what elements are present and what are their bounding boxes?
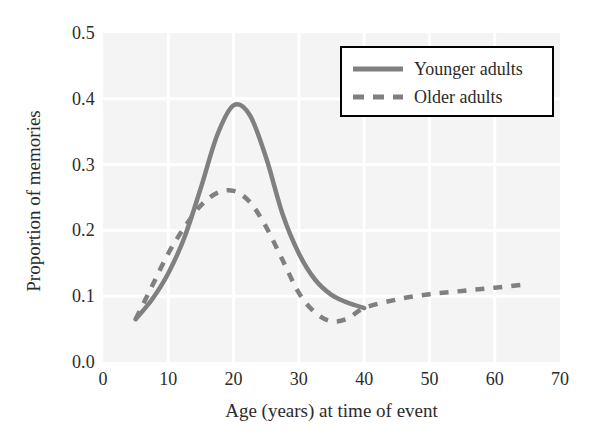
solid-line-swatch-icon [352,59,404,79]
y-tick-label: 0.4 [47,90,95,108]
y-axis-tick-labels: 0.5 0.4 0.3 0.2 0.1 0.0 [40,33,95,362]
y-tick-label: 0.1 [47,287,95,305]
chart-legend: Younger adults Older adults [340,46,554,117]
y-axis-title: Proportion of memories [23,31,45,371]
legend-entry-younger-adults: Younger adults [352,55,542,83]
y-tick-label: 0.0 [47,353,95,371]
x-tick-label: 60 [475,370,515,388]
y-tick-label: 0.2 [47,221,95,239]
x-axis-title: Age (years) at time of event [103,400,560,422]
x-tick-label: 20 [214,370,254,388]
y-tick-label: 0.3 [47,156,95,174]
legend-label: Younger adults [414,59,523,79]
chart-figure: 0.5 0.4 0.3 0.2 0.1 0.0 0 10 20 30 40 50… [0,0,598,446]
x-tick-label: 70 [540,370,580,388]
legend-entry-older-adults: Older adults [352,83,542,111]
legend-label: Older adults [414,87,502,107]
series-line-younger-adults [136,104,365,319]
x-tick-label: 50 [409,370,449,388]
x-axis-tick-labels: 0 10 20 30 40 50 60 70 [103,370,560,394]
dashed-line-swatch-icon [352,87,404,107]
x-tick-label: 0 [83,370,123,388]
x-tick-label: 10 [148,370,188,388]
y-tick-label: 0.5 [47,24,95,42]
x-tick-label: 40 [344,370,384,388]
x-tick-label: 30 [279,370,319,388]
